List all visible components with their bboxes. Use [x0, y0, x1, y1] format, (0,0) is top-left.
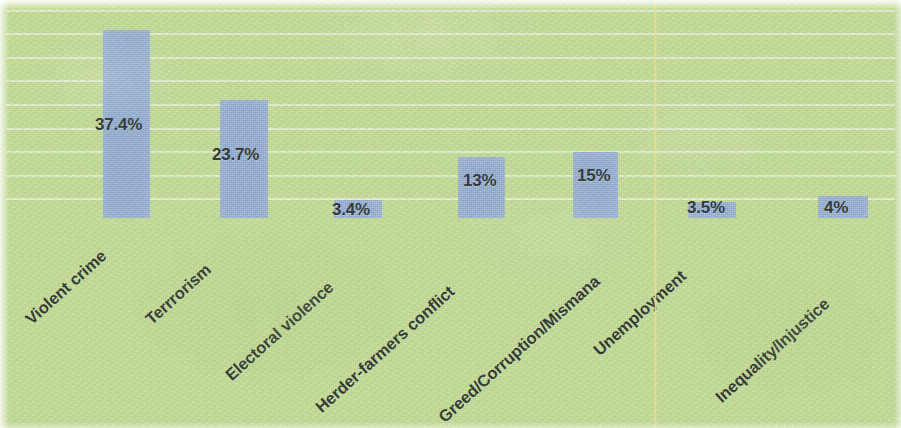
bar-value-label: 23.7%	[212, 145, 259, 165]
plot-area: 37.4%23.7%3.4%13%15%3.5%4% Violent crime…	[0, 0, 901, 428]
bar-value-label: 3.4%	[332, 200, 370, 220]
category-axis-label: Greed/Corruption/Mismana	[435, 272, 604, 427]
bar-value-label: 15%	[577, 166, 610, 186]
category-axis-label: Herder-farmers conflict	[312, 282, 459, 417]
category-axis-label: Unemployment	[590, 266, 690, 359]
bar-value-label: 3.5%	[687, 198, 725, 218]
category-axis-label: Electoral violence	[222, 278, 338, 385]
category-axis-label: Inequality/Injustice	[712, 294, 834, 406]
category-axis-label: Terrrorism	[142, 260, 215, 328]
bar-value-label: 13%	[463, 171, 496, 191]
gridline	[6, 10, 895, 12]
bar-value-label: 37.4%	[95, 115, 142, 135]
category-axis-label: Violent crime	[22, 246, 111, 328]
bar-chart-image: 37.4%23.7%3.4%13%15%3.5%4% Violent crime…	[0, 0, 901, 428]
bar-value-label: 4%	[824, 198, 848, 218]
